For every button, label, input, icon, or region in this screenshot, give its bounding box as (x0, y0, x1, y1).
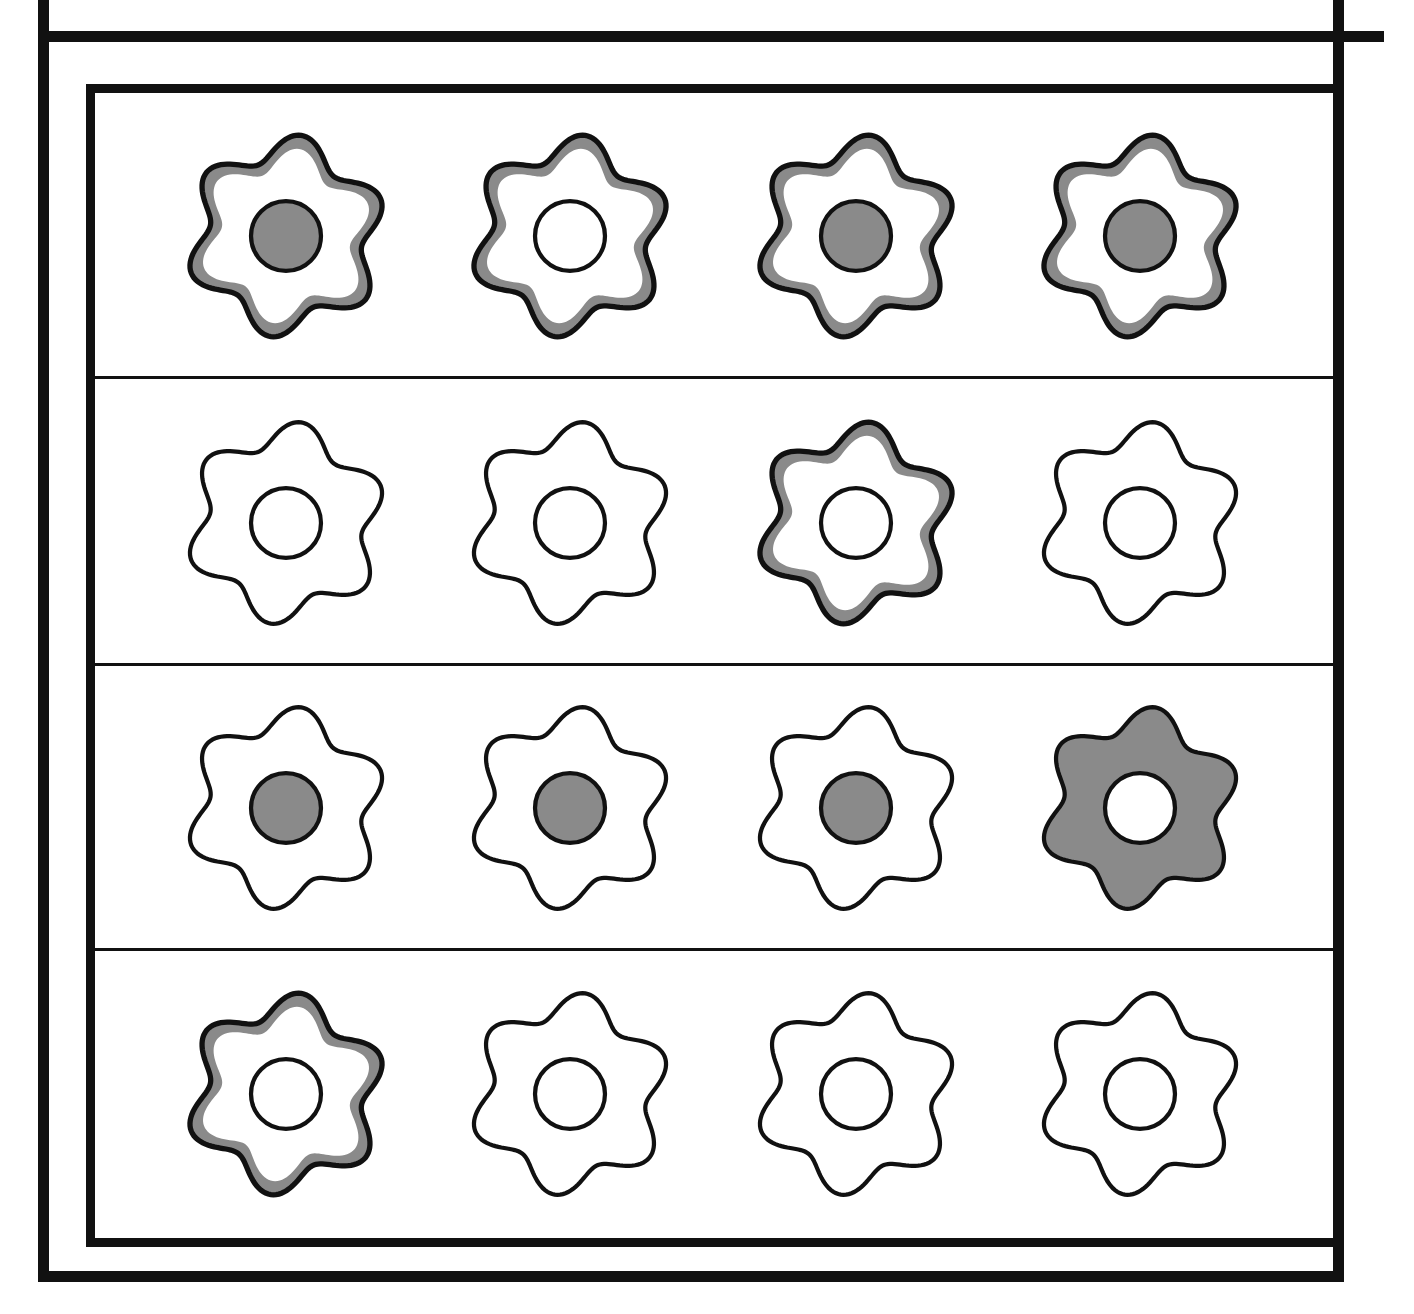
flower-icon[interactable] (750, 130, 962, 342)
flower-icon[interactable] (180, 130, 392, 342)
flower-icon[interactable] (464, 130, 676, 342)
grid-row-3 (95, 665, 1333, 951)
flower-icon[interactable] (1034, 702, 1246, 914)
flower-icon[interactable] (750, 988, 962, 1200)
flower-icon[interactable] (750, 702, 962, 914)
flower-icon[interactable] (180, 417, 392, 629)
flower-icon[interactable] (464, 702, 676, 914)
grid-row-4 (95, 951, 1333, 1237)
flower-icon[interactable] (1034, 130, 1246, 342)
flower-grid (86, 84, 1342, 1247)
flower-icon[interactable] (464, 417, 676, 629)
flower-icon[interactable] (1034, 417, 1246, 629)
flower-icon[interactable] (750, 417, 962, 629)
grid-row-1 (95, 93, 1333, 379)
flower-icon[interactable] (180, 988, 392, 1200)
grid-row-2 (95, 380, 1333, 666)
flower-icon[interactable] (464, 988, 676, 1200)
flower-icon[interactable] (180, 702, 392, 914)
flower-icon[interactable] (1034, 988, 1246, 1200)
